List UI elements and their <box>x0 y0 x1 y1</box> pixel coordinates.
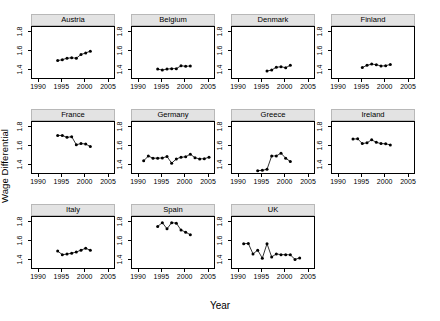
x-tick-label: 1990 <box>325 83 351 90</box>
x-tick-mark <box>408 79 409 82</box>
y-tick-label: 1.8 <box>116 118 123 134</box>
x-tick-label: 2000 <box>272 273 298 280</box>
x-tick-mark <box>308 174 309 177</box>
x-tick-label: 2005 <box>395 178 421 185</box>
x-tick-label: 1995 <box>48 273 74 280</box>
x-tick-label: 2000 <box>372 178 398 185</box>
x-tick-mark <box>184 269 185 272</box>
panel-plot-area-denmark <box>231 26 315 79</box>
x-tick-mark <box>338 174 339 177</box>
x-tick-label: 1990 <box>125 83 151 90</box>
x-tick-label: 2000 <box>372 83 398 90</box>
x-tick-mark <box>208 79 209 82</box>
y-tick-mark <box>328 50 331 51</box>
x-tick-mark <box>384 174 385 177</box>
x-tick-mark <box>84 174 85 177</box>
y-tick-label: 1.4 <box>216 156 223 172</box>
x-tick-label: 1990 <box>125 273 151 280</box>
y-tick-label: 1.4 <box>116 156 123 172</box>
x-tick-label: 1995 <box>348 178 374 185</box>
y-tick-mark <box>228 31 231 32</box>
y-tick-label: 1.8 <box>316 118 323 134</box>
x-tick-label: 1995 <box>48 83 74 90</box>
y-tick-label: 1.8 <box>16 118 23 134</box>
y-tick-mark <box>28 126 31 127</box>
panel-strip-label-italy: Italy <box>31 204 115 216</box>
x-tick-label: 2000 <box>72 178 98 185</box>
y-tick-mark <box>128 69 131 70</box>
x-tick-label: 2005 <box>395 83 421 90</box>
panel-strip-label-ireland: Ireland <box>331 109 415 121</box>
x-tick-label: 1995 <box>348 83 374 90</box>
y-axis-label: Wage Differential <box>0 0 10 96</box>
y-tick-label: 1.4 <box>316 156 323 172</box>
x-tick-label: 2005 <box>95 273 121 280</box>
y-tick-label: 1.8 <box>116 23 123 39</box>
x-tick-mark <box>284 174 285 177</box>
x-tick-mark <box>238 79 239 82</box>
y-tick-mark <box>228 50 231 51</box>
y-tick-label: 1.6 <box>16 232 23 248</box>
x-tick-label: 2000 <box>272 178 298 185</box>
panel-strip-label-spain: Spain <box>131 204 215 216</box>
y-tick-label: 1.6 <box>116 232 123 248</box>
x-tick-label: 2000 <box>172 178 198 185</box>
y-tick-label: 1.6 <box>216 42 223 58</box>
x-tick-label: 1995 <box>48 178 74 185</box>
x-tick-label: 2005 <box>295 178 321 185</box>
x-tick-mark <box>61 269 62 272</box>
panel-strip-label-greece: Greece <box>231 109 315 121</box>
panel-strip-label-finland: Finland <box>331 14 415 26</box>
panel-plot-area-belgium <box>131 26 215 79</box>
x-tick-label: 1990 <box>25 178 51 185</box>
x-tick-mark <box>208 174 209 177</box>
x-tick-label: 1990 <box>225 273 251 280</box>
y-tick-mark <box>28 31 31 32</box>
x-tick-label: 1990 <box>125 178 151 185</box>
y-tick-mark <box>228 240 231 241</box>
x-tick-mark <box>108 174 109 177</box>
x-tick-mark <box>38 174 39 177</box>
y-tick-mark <box>128 126 131 127</box>
panel-plot-area-spain <box>131 216 215 269</box>
panel-plot-area-france <box>31 121 115 174</box>
x-tick-mark <box>384 79 385 82</box>
panel-strip-label-austria: Austria <box>31 14 115 26</box>
y-tick-mark <box>128 50 131 51</box>
x-tick-label: 2005 <box>195 273 221 280</box>
panel-strip-label-belgium: Belgium <box>131 14 215 26</box>
x-tick-mark <box>138 79 139 82</box>
y-tick-mark <box>328 145 331 146</box>
y-tick-mark <box>228 145 231 146</box>
x-tick-label: 2005 <box>295 83 321 90</box>
y-tick-mark <box>128 31 131 32</box>
y-tick-mark <box>28 69 31 70</box>
x-tick-label: 1995 <box>148 178 174 185</box>
x-tick-label: 2005 <box>95 178 121 185</box>
panel-strip-label-uk: UK <box>231 204 315 216</box>
x-tick-label: 1995 <box>148 83 174 90</box>
x-tick-mark <box>161 174 162 177</box>
x-tick-mark <box>261 174 262 177</box>
x-tick-label: 2000 <box>172 273 198 280</box>
x-tick-label: 2000 <box>72 273 98 280</box>
x-tick-label: 1990 <box>225 83 251 90</box>
y-tick-label: 1.4 <box>216 251 223 267</box>
x-tick-label: 2000 <box>172 83 198 90</box>
x-tick-mark <box>38 269 39 272</box>
x-tick-mark <box>208 269 209 272</box>
y-tick-label: 1.4 <box>16 156 23 172</box>
x-tick-mark <box>361 174 362 177</box>
y-tick-label: 1.4 <box>316 61 323 77</box>
panel-plot-area-italy <box>31 216 115 269</box>
panel-plot-area-ireland <box>331 121 415 174</box>
x-tick-label: 1990 <box>225 178 251 185</box>
y-tick-mark <box>228 164 231 165</box>
y-tick-mark <box>128 164 131 165</box>
x-tick-mark <box>261 269 262 272</box>
y-tick-label: 1.4 <box>116 61 123 77</box>
x-tick-label: 2005 <box>95 83 121 90</box>
y-tick-label: 1.6 <box>116 42 123 58</box>
x-tick-label: 1995 <box>248 83 274 90</box>
x-tick-mark <box>138 174 139 177</box>
